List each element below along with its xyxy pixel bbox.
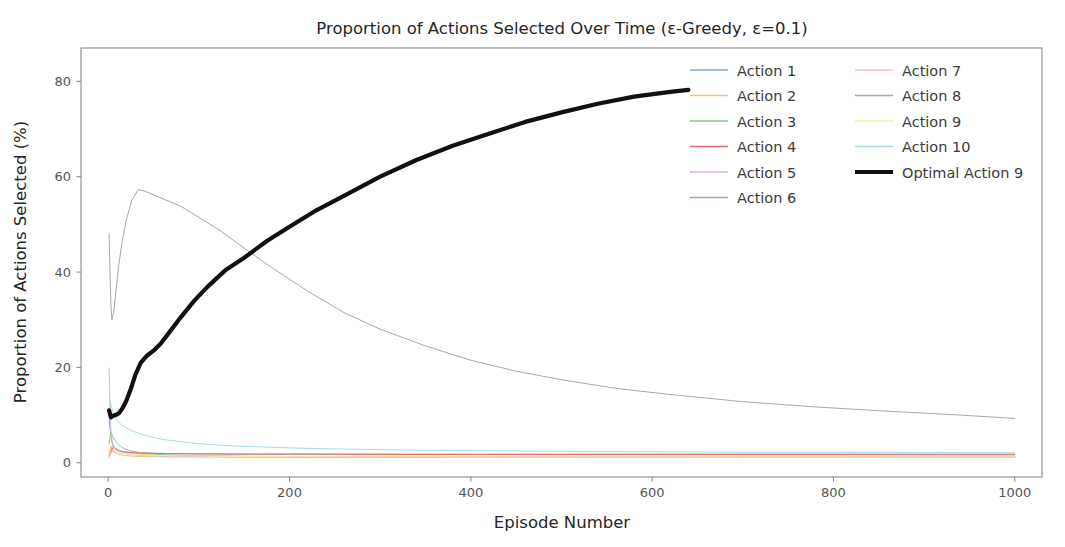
line-chart: Proportion of Actions Selected Over Time…	[0, 0, 1065, 547]
legend-label-action-6[interactable]: Action 6	[737, 190, 796, 206]
legend-label-optimal-action-9[interactable]: Optimal Action 9	[902, 165, 1023, 181]
legend-label-action-9[interactable]: Action 9	[902, 114, 961, 130]
legend-label-action-8[interactable]: Action 8	[902, 88, 961, 104]
y-tick-label: 0	[63, 455, 71, 470]
x-tick-label: 400	[458, 485, 483, 500]
legend-label-action-7[interactable]: Action 7	[902, 63, 961, 79]
x-tick-label: 600	[640, 485, 665, 500]
chart-title: Proportion of Actions Selected Over Time…	[316, 19, 807, 38]
legend-label-action-5[interactable]: Action 5	[737, 165, 796, 181]
legend-label-action-2[interactable]: Action 2	[737, 88, 796, 104]
x-tick-label: 0	[104, 485, 112, 500]
legend-label-action-3[interactable]: Action 3	[737, 114, 796, 130]
legend-label-action-1[interactable]: Action 1	[737, 63, 796, 79]
y-tick-label: 40	[54, 265, 71, 280]
legend-label-action-4[interactable]: Action 4	[737, 139, 796, 155]
x-tick-label: 200	[277, 485, 302, 500]
x-tick-label: 800	[821, 485, 846, 500]
y-tick-label: 20	[54, 360, 71, 375]
chart-page: Proportion of Actions Selected Over Time…	[0, 0, 1065, 547]
x-tick-label: 1000	[998, 485, 1031, 500]
legend-label-action-10[interactable]: Action 10	[902, 139, 970, 155]
plot-background	[0, 0, 1065, 547]
y-tick-label: 80	[54, 74, 71, 89]
y-axis-label: Proportion of Actions Selected (%)	[11, 121, 30, 403]
x-axis-label: Episode Number	[494, 513, 631, 532]
y-tick-label: 60	[54, 169, 71, 184]
